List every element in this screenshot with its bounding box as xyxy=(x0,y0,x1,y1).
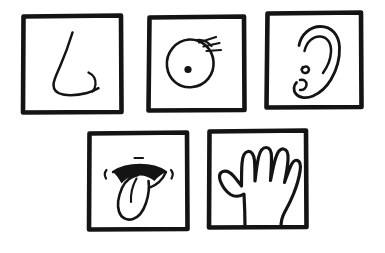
five-senses-illustration: The Five Senses xyxy=(0,0,385,253)
eye-pupil xyxy=(184,66,191,73)
senses-canvas xyxy=(0,0,385,253)
